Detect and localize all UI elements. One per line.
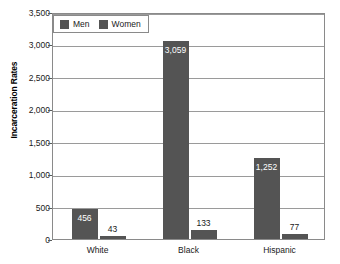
y-tick-mark [48,240,52,241]
legend-swatch-men [60,20,69,29]
y-tick-label: 3,000 [4,40,50,50]
legend-item-men[interactable]: Men [60,19,90,29]
y-tick-mark [48,175,52,176]
plot-area: 456433,0591331,25277 [52,13,325,240]
bar-white-women[interactable] [100,236,126,239]
bar-value-label: 456 [72,213,98,223]
x-tick-label-white: White [87,245,109,255]
x-tick-label-black: Black [178,245,199,255]
bar-value-label: 3,059 [163,45,189,55]
x-tick-label-hispanic: Hispanic [263,245,296,255]
y-tick-mark [48,208,52,209]
legend-swatch-women [99,20,108,29]
y-tick-mark [48,110,52,111]
y-tick-label: 1,000 [4,170,50,180]
bar-value-label: 1,252 [254,162,280,172]
legend-item-women[interactable]: Women [99,19,141,29]
legend-label-men: Men [73,19,90,29]
bar-black-women[interactable] [191,230,217,239]
bar-value-label: 77 [282,222,308,232]
legend: Men Women [53,15,149,33]
y-tick-mark [48,45,52,46]
bar-hispanic-women[interactable] [282,234,308,239]
bar-black-men[interactable] [163,41,189,239]
y-tick-label: 3,500 [4,8,50,18]
chart-container: Incarceration Rates 456433,0591331,25277… [0,0,340,264]
y-tick-label: 1,500 [4,138,50,148]
bar-value-label: 133 [191,218,217,228]
y-tick-label: 2,000 [4,105,50,115]
y-tick-mark [48,78,52,79]
y-tick-mark [48,143,52,144]
bars-layer: 456433,0591331,25277 [53,14,324,239]
y-tick-label: 500 [4,203,50,213]
bar-value-label: 43 [100,224,126,234]
y-tick-mark [48,13,52,14]
legend-label-women: Women [112,19,141,29]
y-tick-label: 2,500 [4,73,50,83]
y-tick-label: 0 [4,235,50,245]
